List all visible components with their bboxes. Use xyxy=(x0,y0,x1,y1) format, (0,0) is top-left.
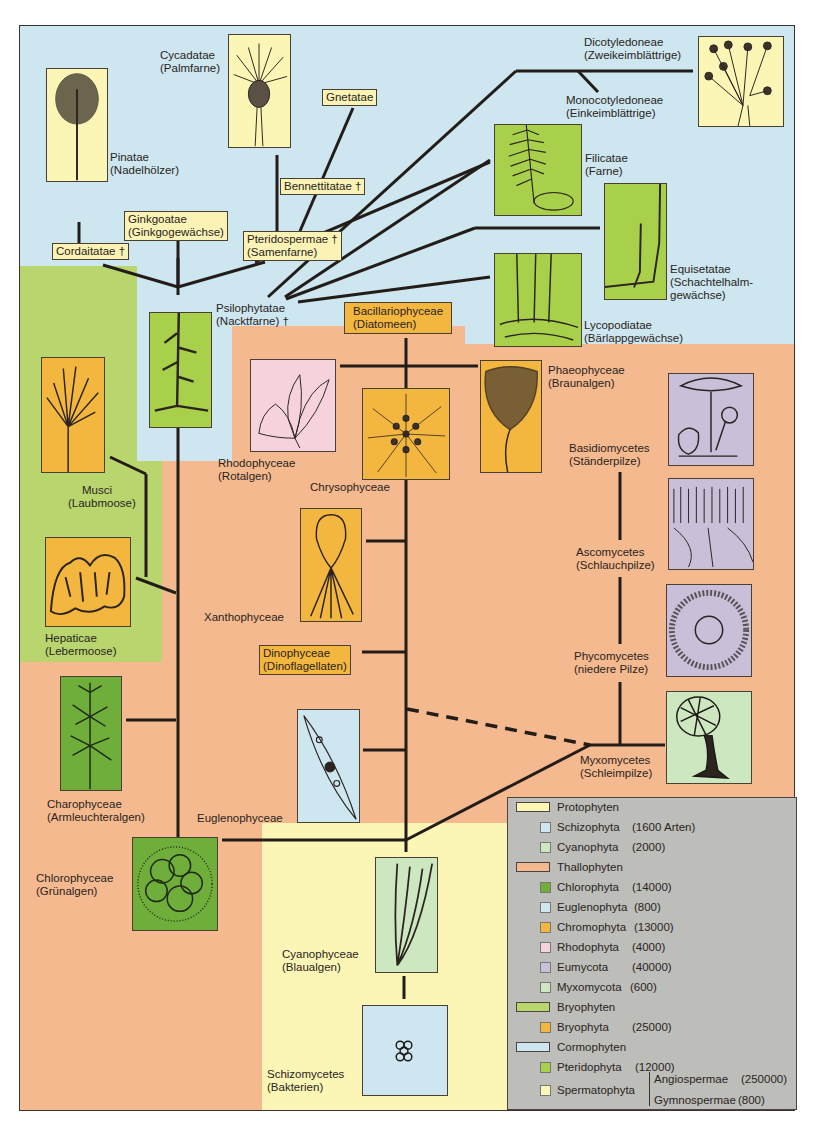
cyanophyceae-illustration xyxy=(375,857,438,973)
chrysophyceae-illustration xyxy=(362,388,450,480)
legend-swatch xyxy=(540,922,551,933)
psilophyte-icon xyxy=(150,313,211,427)
fern-frond-icon xyxy=(495,125,581,215)
bacillariophyceae-tag: Bacillariophyceae (Diatomeen) xyxy=(344,302,452,334)
chlorophyceae-label: Chlorophyceae (Grünalgen) xyxy=(36,872,113,898)
phycomycetes-label: Phycomycetes (niedere Pilze) xyxy=(574,650,649,676)
legend-swatch xyxy=(516,862,550,872)
conifer-tree-icon xyxy=(47,69,107,181)
schizomycetes-illustration xyxy=(362,1005,448,1096)
myxomycetes-illustration xyxy=(666,691,752,784)
stonewort-icon xyxy=(61,677,121,790)
chlorophyceae-illustration xyxy=(132,837,218,931)
chrysophyte-colony-icon xyxy=(363,389,449,479)
euglenophyceae-label: Euglenophyceae xyxy=(197,812,283,825)
equisetatae-label: Equisetatae (Schachtelhalm- gewächse) xyxy=(670,263,753,302)
cup-fungus-icon xyxy=(669,479,753,569)
ascomycetes-illustration xyxy=(668,478,754,570)
phaeophyceae-label: Phaeophyceae (Braunalgen) xyxy=(548,364,625,390)
rhodophyceae-illustration xyxy=(250,359,336,452)
bacteria-cluster-icon xyxy=(363,1006,447,1095)
filicatae-illustration xyxy=(494,124,582,216)
musci-label: Musci (Laubmoose) xyxy=(68,484,136,510)
filicatae-label: Filicatae (Farne) xyxy=(585,152,628,178)
blue-green-algae-filament-icon xyxy=(376,858,437,972)
legend-swatch xyxy=(540,942,551,953)
euglenophyceae-illustration xyxy=(297,709,360,823)
cycadatae-illustration xyxy=(228,34,291,148)
mold-icon xyxy=(667,585,751,676)
legend-swatch xyxy=(516,1002,550,1012)
legend-swatch xyxy=(540,1062,551,1073)
legend-swatch xyxy=(516,802,550,812)
gnetatae-tag: Gnetatae xyxy=(322,89,377,106)
legend-swatch xyxy=(540,1022,551,1033)
legend-swatch xyxy=(540,982,551,993)
horsetail-icon xyxy=(605,184,666,299)
mushroom-icon xyxy=(669,374,753,465)
hepaticae-illustration xyxy=(45,537,131,627)
umbellifer-flower-icon xyxy=(699,37,783,126)
basidiomycetes-label: Basidiomycetes (Ständerpilze) xyxy=(569,442,650,468)
cycadatae-label: Cycadatae (Palmfarne) xyxy=(160,49,220,75)
legend-swatch xyxy=(516,1042,550,1052)
lycopodiatae-illustration xyxy=(494,253,582,347)
musci-illustration xyxy=(41,357,105,473)
green-algae-colony-icon xyxy=(133,838,217,930)
legend-swatch xyxy=(540,842,551,853)
cycad-icon xyxy=(229,35,290,147)
ginkgoatae-tag: Ginkgoatae (Ginkgogewächse) xyxy=(124,211,228,241)
pinatae-label: Pinatae (Nadelhölzer) xyxy=(110,151,179,177)
phaeophyceae-illustration xyxy=(480,360,542,473)
brown-algae-icon xyxy=(481,361,541,472)
euglena-icon xyxy=(298,710,359,822)
region-bryophyten-ext xyxy=(137,461,162,662)
legend-swatch xyxy=(540,902,551,913)
moss-icon xyxy=(42,358,104,472)
myxomycetes-label: Myxomycetes (Schleimpilze) xyxy=(580,754,652,780)
legend: Protophyten Schizophyta (1600 Arten) Cya… xyxy=(507,797,797,1110)
clubmoss-icon xyxy=(495,254,581,346)
pteridospermae-tag: Pteridospermae † (Samenfarne) xyxy=(243,231,342,261)
hepaticae-label: Hepaticae (Lebermoose) xyxy=(45,632,117,658)
psilophytatae-label: Psilophytatae (Nacktfarne) † xyxy=(216,302,289,328)
dicotyledoneae-label: Dicotyledoneae (Zweikeimblättrige) xyxy=(584,36,681,62)
ascomycetes-label: Ascomycetes (Schlauchpilze) xyxy=(576,546,655,572)
schizomycetes-label: Schizomycetes (Bakterien) xyxy=(267,1068,344,1094)
red-algae-icon xyxy=(251,360,335,451)
slime-mold-icon xyxy=(667,692,751,783)
cordaitatae-tag: Cordaitatae † xyxy=(52,243,129,260)
pinatae-illustration xyxy=(46,68,108,182)
liverwort-icon xyxy=(46,538,130,626)
xanthophyte-icon xyxy=(301,509,361,621)
phycomycetes-illustration xyxy=(666,584,752,677)
equisetatae-illustration xyxy=(604,183,667,300)
basidiomycetes-illustration xyxy=(668,373,754,466)
legend-swatch xyxy=(540,962,551,973)
charophyceae-illustration xyxy=(60,676,122,791)
bennettitatae-tag: Bennettitatae † xyxy=(280,178,365,195)
cyanophyceae-label: Cyanophyceae (Blaualgen) xyxy=(282,948,359,974)
charophyceae-label: Charophyceae (Armleuchteralgen) xyxy=(47,798,145,824)
legend-swatch xyxy=(540,1085,551,1096)
xanthophyceae-label: Xanthophyceae xyxy=(204,611,284,624)
xanthophyceae-illustration xyxy=(300,508,362,622)
dinophyceae-tag: Dinophyceae (Dinoflagellaten) xyxy=(259,645,351,675)
rhodophyceae-label: Rhodophyceae (Rotalgen) xyxy=(218,457,295,483)
legend-swatch xyxy=(540,882,551,893)
monocotyledoneae-label: Monocotyledoneae (Einkeimblättrige) xyxy=(566,94,663,120)
psilophytatae-illustration xyxy=(149,312,212,428)
legend-swatch xyxy=(540,822,551,833)
lycopodiatae-label: Lycopodiatae (Bärlappgewächse) xyxy=(584,319,683,345)
chrysophyceae-label: Chrysophyceae xyxy=(310,481,390,494)
dicotyledoneae-illustration xyxy=(698,36,784,127)
